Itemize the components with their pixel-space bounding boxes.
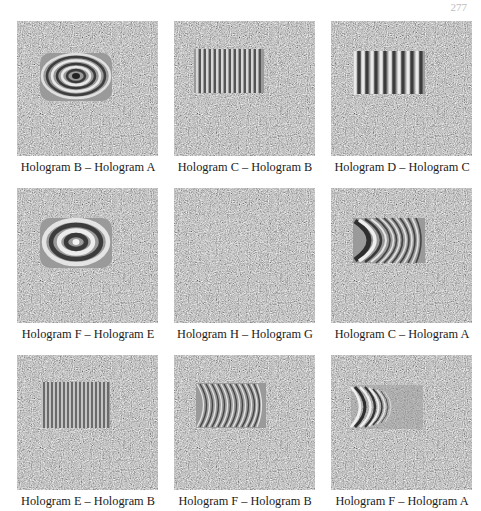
- panel-caption: Hologram C – Hologram A: [322, 327, 481, 342]
- hologram-panel-5: Hologram H – Hologram G: [174, 188, 315, 342]
- fringe-image-curved-compact: [331, 355, 472, 490]
- panel-caption: Hologram E – Hologram B: [8, 494, 168, 509]
- panel-caption: Hologram D – Hologram C: [322, 160, 481, 175]
- fringe-image-vertical-fine: [174, 21, 315, 156]
- panel-caption: Hologram F – Hologram E: [8, 327, 168, 342]
- panel-caption: Hologram F – Hologram A: [322, 494, 481, 509]
- hologram-panel-2: Hologram C – Hologram B: [174, 21, 315, 175]
- panel-caption: Hologram H – Hologram G: [165, 327, 325, 342]
- fringe-image-curved-left: [331, 188, 472, 323]
- hologram-panel-7: Hologram E – Hologram B: [17, 355, 158, 509]
- fringe-image-rings-coarse: [17, 188, 158, 323]
- hologram-panel-4: Hologram F – Hologram E: [17, 188, 158, 342]
- hologram-panel-6: Hologram C – Hologram A: [331, 188, 472, 342]
- fringe-image-vertical-dense: [17, 355, 158, 490]
- panel-caption: Hologram C – Hologram B: [165, 160, 325, 175]
- hologram-panel-1: Hologram B – Hologram A: [17, 21, 158, 175]
- fringe-image-rings-fine: [17, 21, 158, 156]
- hologram-panel-8: Hologram F – Hologram B: [174, 355, 315, 509]
- fringe-image-curved-dense: [174, 355, 315, 490]
- page-number: 277: [451, 1, 468, 13]
- hologram-panel-3: Hologram D – Hologram C: [331, 21, 472, 175]
- fringe-image-vertical-coarse: [331, 21, 472, 156]
- panel-caption: Hologram B – Hologram A: [8, 160, 168, 175]
- hologram-panel-9: Hologram F – Hologram A: [331, 355, 472, 509]
- fringe-image-noise-only: [174, 188, 315, 323]
- panel-caption: Hologram F – Hologram B: [165, 494, 325, 509]
